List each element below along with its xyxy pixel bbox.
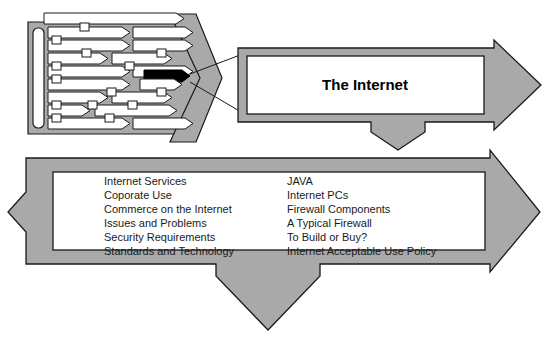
network-packet <box>133 27 193 38</box>
network-packet <box>133 118 193 129</box>
network-node <box>82 49 91 57</box>
network-node <box>157 49 166 57</box>
network-node <box>105 114 114 122</box>
network-node <box>125 62 134 70</box>
network-node <box>88 101 97 109</box>
topic-item: Issues and Problems <box>104 217 207 229</box>
network-node <box>107 88 116 96</box>
network-node <box>52 62 61 70</box>
internet-label: The Internet <box>322 76 408 93</box>
topic-item: Coporate Use <box>104 189 172 201</box>
corporate-network-panel <box>28 13 222 142</box>
network-node <box>128 101 137 109</box>
network-node <box>52 75 61 83</box>
topic-item: Internet Acceptable Use Policy <box>287 245 437 257</box>
topic-item: Security Requirements <box>104 231 216 243</box>
network-node <box>52 101 61 109</box>
network-packet <box>44 13 184 24</box>
figure-canvas: The Internet Internet Services Coporate … <box>0 0 552 350</box>
network-node <box>52 36 61 44</box>
topic-item: Commerce on the Internet <box>104 203 232 215</box>
internet-overview-diagram: The Internet Internet Services Coporate … <box>0 0 552 350</box>
topic-item: Internet Services <box>104 175 187 187</box>
network-node <box>157 88 166 96</box>
network-node <box>52 114 61 122</box>
network-backbone-bar <box>33 28 44 128</box>
topic-item: A Typical Firewall <box>287 217 372 229</box>
topic-item: Firewall Components <box>287 203 391 215</box>
network-node <box>80 23 89 31</box>
topic-item: To Build or Buy? <box>287 231 367 243</box>
topic-item: Internet PCs <box>287 189 349 201</box>
topic-item: JAVA <box>287 175 314 187</box>
topic-item: Standards and Technology <box>104 245 235 257</box>
